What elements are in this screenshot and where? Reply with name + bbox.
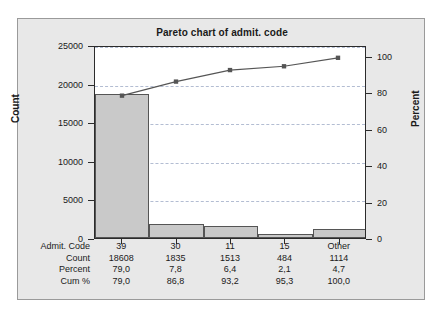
plot-area [94, 46, 366, 239]
y-axis-right-tick-label: 40 [377, 161, 387, 171]
table-row-label: Count [18, 253, 90, 263]
cumulative-marker [120, 93, 124, 97]
y-axis-right-title: Percent [410, 90, 421, 127]
cumulative-line-path [122, 58, 338, 96]
table-cell: 1835 [166, 253, 186, 263]
table-row: Percent79,07,86,42,14,7 [18, 264, 426, 276]
y-axis-right-tick-label: 80 [377, 88, 387, 98]
y-axis-right-tick-mark [366, 239, 372, 240]
pareto-chart-figure: Pareto chart of admit. code Count Percen… [17, 18, 425, 300]
table-cell: 79,0 [112, 276, 130, 286]
table-cell: 2,1 [278, 264, 291, 274]
y-axis-left-tick-label: 20000 [18, 80, 83, 90]
cumulative-marker [336, 56, 340, 60]
table-cell: 18608 [109, 253, 134, 263]
table-cell: 484 [277, 253, 292, 263]
y-axis-left-tick-label: 15000 [18, 118, 83, 128]
y-axis-right-tick-label: 60 [377, 125, 387, 135]
chart-title: Pareto chart of admit. code [18, 27, 426, 38]
cumulative-marker [228, 68, 232, 72]
table-row-label: Cum % [18, 276, 90, 286]
table-cell: 100,0 [328, 276, 351, 286]
table-cell: 11 [225, 241, 234, 251]
table-row: Cum %79,086,893,295,3100,0 [18, 276, 426, 288]
y-axis-left-tick-label: 5000 [18, 195, 83, 205]
table-cell: 95,3 [276, 276, 294, 286]
y-axis-left-tick-label: 25000 [18, 41, 83, 51]
table-cell: 7,8 [169, 264, 182, 274]
y-axis-right-tick-mark [366, 166, 372, 167]
y-axis-left-tick-mark [88, 239, 94, 240]
table-cell: 1114 [329, 253, 348, 263]
table-cell: 6,4 [224, 264, 237, 274]
cumulative-marker [282, 64, 286, 68]
cumulative-marker [174, 79, 178, 83]
y-axis-right-tick-mark [366, 57, 372, 58]
y-axis-right-tick-mark [366, 130, 372, 131]
table-cell: 86,8 [167, 276, 185, 286]
table-row-label: Percent [18, 264, 90, 274]
table-row: Count18608183515134841114 [18, 253, 426, 265]
cumulative-percent-line [95, 47, 365, 238]
table-cell: Other [328, 241, 351, 251]
y-axis-right-tick-label: 20 [377, 198, 387, 208]
table-cell: 4,7 [333, 264, 346, 274]
y-axis-left-tick-label: 10000 [18, 157, 83, 167]
table-cell: 1513 [220, 253, 240, 263]
table-cell: 79,0 [112, 264, 130, 274]
y-axis-right-tick-mark [366, 203, 372, 204]
data-table: Admit. Code39301115OtherCount18608183515… [18, 241, 426, 287]
table-cell: 39 [116, 241, 126, 251]
table-row-label: Admit. Code [18, 241, 90, 251]
y-axis-right-tick-mark [366, 93, 372, 94]
table-cell: 15 [279, 241, 289, 251]
y-axis-right-tick-label: 100 [377, 52, 392, 62]
table-cell: 30 [171, 241, 181, 251]
table-cell: 93,2 [221, 276, 239, 286]
table-row: Admit. Code39301115Other [18, 241, 426, 253]
